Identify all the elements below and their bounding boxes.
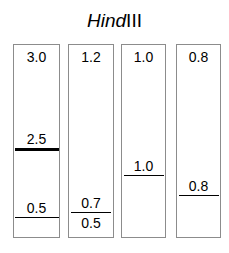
lane-1-band-0-5-line bbox=[15, 217, 59, 218]
lane-1-band-2-5: 2.5 bbox=[15, 131, 59, 151]
lane-3-band-1-0-line bbox=[124, 175, 164, 176]
enzyme-genus-text: Hind bbox=[87, 10, 126, 31]
lane-4-band-0-8-line bbox=[179, 195, 219, 196]
lane-2-top-label: 1.2 bbox=[69, 49, 113, 65]
lane-2-band-0-5-label: 0.5 bbox=[71, 215, 111, 231]
lane-1-top-label: 3.0 bbox=[14, 49, 59, 65]
lane-1-band-0-5: 0.5 bbox=[15, 200, 59, 218]
gel-lane-4[interactable]: 0.8 0.8 bbox=[176, 44, 221, 238]
gel-lane-1[interactable]: 3.0 2.5 0.5 bbox=[13, 44, 60, 238]
lane-3-band-1-0-label: 1.0 bbox=[124, 158, 164, 174]
enzyme-numeral-text: III bbox=[126, 10, 142, 31]
lane-1-band-2-5-line bbox=[15, 148, 59, 151]
lane-4-band-0-8-label: 0.8 bbox=[179, 178, 219, 194]
lane-3-band-1-0: 1.0 bbox=[124, 158, 164, 176]
lane-4-band-0-8: 0.8 bbox=[179, 178, 219, 196]
lane-4-top-label: 0.8 bbox=[177, 49, 220, 65]
gel-lane-2[interactable]: 1.2 0.7 0.5 bbox=[68, 44, 114, 238]
lane-1-band-0-5-label: 0.5 bbox=[15, 200, 59, 216]
lane-1-band-2-5-label: 2.5 bbox=[15, 131, 59, 147]
lane-2-band-0-7-0-5: 0.7 0.5 bbox=[71, 195, 111, 231]
gel-diagram: HindIII 3.0 2.5 0.5 1.2 0.7 0.5 1.0 1.0 … bbox=[0, 0, 229, 253]
page-title: HindIII bbox=[0, 10, 229, 32]
gel-lane-3[interactable]: 1.0 1.0 bbox=[121, 44, 166, 238]
lane-2-band-0-7-label: 0.7 bbox=[71, 195, 111, 211]
lane-2-band-line bbox=[71, 212, 111, 213]
lane-3-top-label: 1.0 bbox=[122, 49, 165, 65]
